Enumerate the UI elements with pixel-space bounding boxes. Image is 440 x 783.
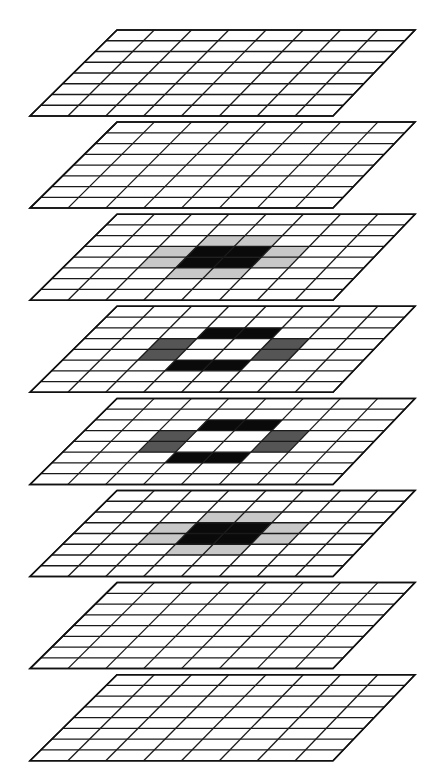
plane-7 [30, 583, 415, 669]
plane-1 [30, 30, 415, 116]
plane-4 [30, 306, 415, 392]
plane-3 [30, 214, 415, 300]
diagram-canvas [0, 0, 440, 783]
plane-6 [30, 491, 415, 577]
plane-5 [30, 398, 415, 484]
plane-2 [30, 122, 415, 208]
plane-8 [30, 675, 415, 761]
stacked-grid-diagram [0, 0, 440, 783]
